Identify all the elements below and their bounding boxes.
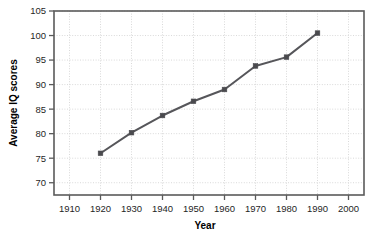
x-tick-label: 1950 <box>183 203 204 214</box>
y-tick-label: 85 <box>35 104 46 115</box>
y-tick-label: 105 <box>30 5 46 16</box>
y-tick-label: 75 <box>35 153 46 164</box>
data-point-marker <box>315 31 320 36</box>
y-axis-title: Average IQ scores <box>8 59 19 147</box>
x-tick-label: 1910 <box>59 203 80 214</box>
y-tick-label: 70 <box>35 177 46 188</box>
chart-canvas: 1910192019301940195019601970198019902000… <box>0 0 382 239</box>
x-tick-label: 1990 <box>307 203 328 214</box>
data-point-marker <box>222 87 227 92</box>
y-tick-label: 80 <box>35 128 46 139</box>
data-point-marker <box>284 55 289 60</box>
x-tick-label: 1960 <box>214 203 235 214</box>
x-tick-label: 1980 <box>276 203 297 214</box>
y-tick-label: 95 <box>35 54 46 65</box>
iq-line-chart: 1910192019301940195019601970198019902000… <box>0 0 382 239</box>
y-tick-label: 100 <box>30 30 46 41</box>
y-tick-label: 90 <box>35 79 46 90</box>
x-tick-label: 2000 <box>338 203 359 214</box>
x-tick-label: 1970 <box>245 203 266 214</box>
data-point-marker <box>253 64 258 69</box>
data-point-marker <box>129 130 134 135</box>
data-point-marker <box>98 151 103 156</box>
x-axis-title: Year <box>194 220 215 231</box>
data-point-marker <box>160 113 165 118</box>
x-tick-label: 1930 <box>121 203 142 214</box>
data-point-marker <box>191 99 196 104</box>
x-tick-label: 1920 <box>90 203 111 214</box>
x-tick-label: 1940 <box>152 203 173 214</box>
